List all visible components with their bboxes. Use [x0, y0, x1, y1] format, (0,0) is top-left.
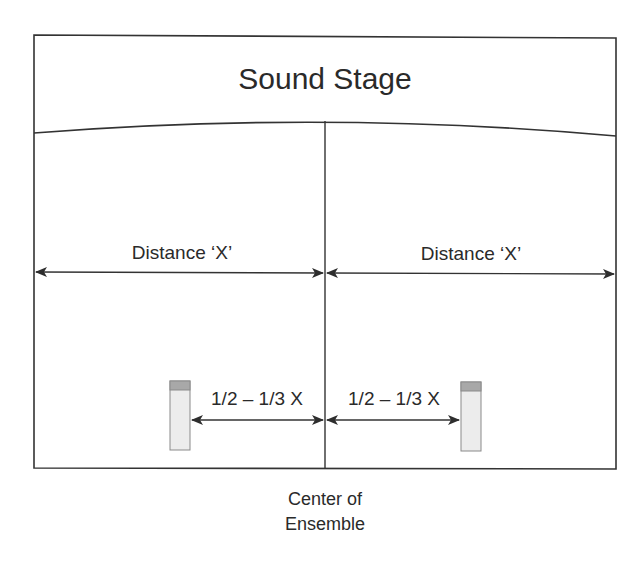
distance-arrow-left — [36, 272, 323, 273]
mic-spacing-label-right: 1/2 – 1/3 X — [348, 388, 440, 409]
distance-label-left: Distance ‘X’ — [132, 242, 232, 263]
distance-label-right: Distance ‘X’ — [421, 243, 521, 264]
microphone-left-icon — [170, 381, 190, 450]
sound-stage-diagram: Sound Stage Distance ‘X’ Distance ‘X’ 1/… — [0, 0, 642, 567]
microphone-right-icon — [461, 382, 481, 451]
mic-spacing-label-left: 1/2 – 1/3 X — [211, 388, 303, 409]
distance-arrow-right — [327, 273, 614, 274]
stage-title: Sound Stage — [238, 62, 411, 95]
center-label-line2: Ensemble — [285, 514, 365, 534]
center-label-line1: Center of — [288, 489, 363, 509]
